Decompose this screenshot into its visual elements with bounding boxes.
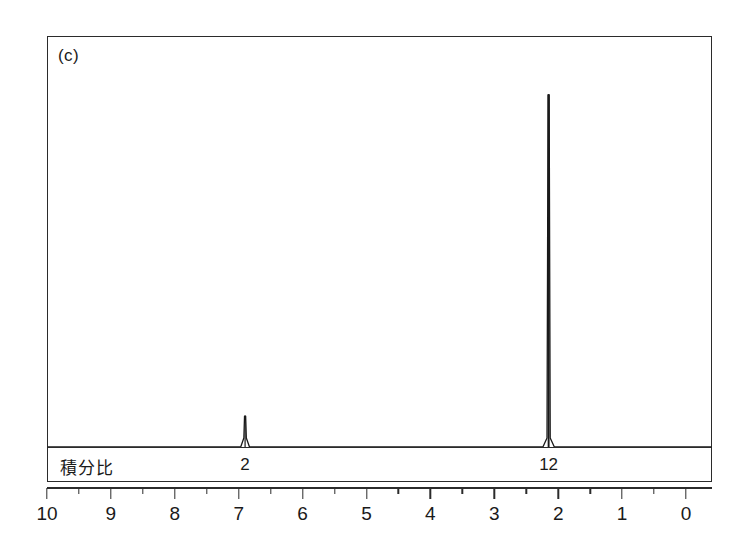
x-axis-tick-label: 4 bbox=[425, 503, 436, 525]
x-axis-major-tick bbox=[494, 488, 495, 499]
x-axis-major-tick bbox=[621, 488, 622, 499]
x-axis-major-tick bbox=[302, 488, 303, 499]
plot-frame bbox=[47, 36, 712, 482]
x-axis-major-tick bbox=[174, 488, 175, 499]
x-axis-tick-label: 3 bbox=[489, 503, 500, 525]
x-axis-minor-tick bbox=[526, 488, 527, 494]
x-axis-major-tick bbox=[46, 488, 47, 499]
x-axis-major-tick bbox=[238, 488, 239, 499]
x-axis-minor-tick bbox=[206, 488, 207, 494]
x-axis-tick-label: 6 bbox=[297, 503, 308, 525]
x-axis-tick-label: 10 bbox=[36, 503, 57, 525]
panel-label: (c) bbox=[58, 46, 79, 66]
x-axis-tick-label: 9 bbox=[106, 503, 117, 525]
x-axis-minor-tick bbox=[462, 488, 463, 494]
integral-ratio-label: 積分比 bbox=[60, 454, 114, 479]
x-axis-minor-tick bbox=[589, 488, 590, 494]
x-axis-tick-label: 8 bbox=[170, 503, 181, 525]
x-axis-minor-tick bbox=[334, 488, 335, 494]
x-axis-minor-tick bbox=[398, 488, 399, 494]
x-axis-major-tick bbox=[366, 488, 367, 499]
x-axis-major-tick bbox=[557, 488, 558, 499]
x-axis-major-tick bbox=[110, 488, 111, 499]
x-axis-major-tick bbox=[430, 488, 431, 499]
integral-value: 2 bbox=[240, 455, 249, 475]
x-axis-tick-label: 0 bbox=[681, 503, 692, 525]
x-axis-minor-tick bbox=[270, 488, 271, 494]
x-axis-minor-tick bbox=[78, 488, 79, 494]
x-axis-tick-label: 5 bbox=[361, 503, 372, 525]
integral-value: 12 bbox=[539, 455, 558, 475]
x-axis-tick-label: 7 bbox=[233, 503, 244, 525]
x-axis-line bbox=[47, 487, 712, 489]
integral-divider bbox=[48, 447, 711, 448]
x-axis-tick-label: 2 bbox=[553, 503, 564, 525]
x-axis-tick-label: 1 bbox=[617, 503, 628, 525]
nmr-spectrum-figure: (c) 積分比 212 109876543210 bbox=[0, 0, 747, 549]
x-axis-major-tick bbox=[685, 488, 686, 499]
x-axis-minor-tick bbox=[142, 488, 143, 494]
x-axis-minor-tick bbox=[653, 488, 654, 494]
integral-band: 積分比 212 bbox=[48, 447, 711, 481]
